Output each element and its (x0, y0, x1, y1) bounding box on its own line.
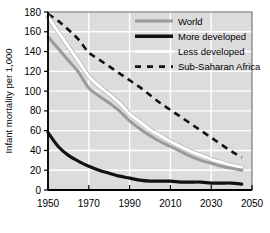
chart-canvas: 020406080100120140160180 195019701990201… (0, 0, 270, 233)
y-tick-label-140: 140 (24, 46, 41, 57)
legend-label-sub-saharan-africa: Sub-Saharan Africa (178, 61, 261, 72)
x-tick-label-1950: 1950 (37, 198, 60, 209)
x-axis-tick-labels: 195019701990201020302050 (37, 198, 264, 209)
legend-label-less-developed: Less developed (178, 46, 245, 57)
x-tick-label-1970: 1970 (78, 198, 101, 209)
legend-label-world: World (178, 16, 203, 27)
y-tick-label-120: 120 (24, 66, 41, 77)
y-tick-label-160: 160 (24, 26, 41, 37)
y-tick-label-180: 180 (24, 7, 41, 18)
y-tick-label-80: 80 (30, 105, 42, 116)
x-tick-label-2050: 2050 (241, 198, 264, 209)
y-tick-label-60: 60 (30, 125, 42, 136)
y-tick-label-20: 20 (30, 165, 42, 176)
x-tick-label-1990: 1990 (118, 198, 141, 209)
y-axis-tick-labels: 020406080100120140160180 (24, 7, 41, 196)
legend-label-more-developed: More developed (178, 31, 246, 42)
y-tick-label-100: 100 (24, 86, 41, 97)
y-axis-title: Infant mortality per 1,000 (3, 48, 14, 153)
y-tick-label-40: 40 (30, 145, 42, 156)
y-tick-label-0: 0 (35, 185, 41, 196)
x-tick-label-2010: 2010 (159, 198, 182, 209)
infant-mortality-chart: 020406080100120140160180 195019701990201… (0, 0, 270, 233)
x-tick-label-2030: 2030 (200, 198, 223, 209)
